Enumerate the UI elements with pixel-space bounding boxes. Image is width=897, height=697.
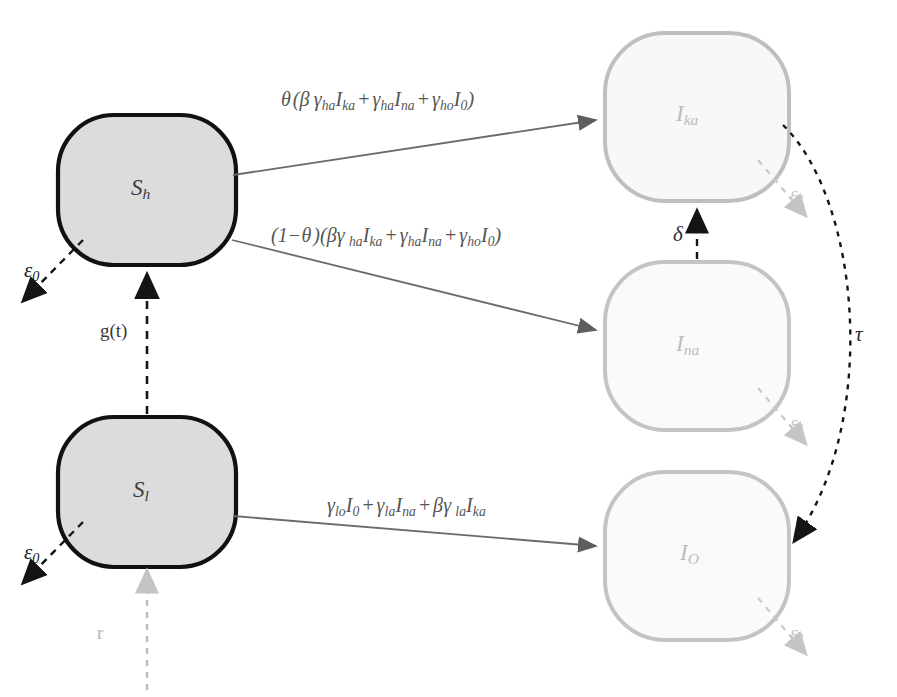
edge-label-delta: δ: [673, 222, 683, 247]
edge-label-tau: τ: [855, 322, 863, 347]
edge-sl-to-io-line: [233, 516, 596, 546]
edge-label-r: r: [97, 622, 103, 644]
edge-label-eps1-ina: ε1: [790, 412, 805, 438]
edge-label-eps0-sh: ε0: [24, 258, 39, 285]
node-label-Sl: Sl: [133, 477, 149, 505]
edge-sh-to-ina-line: [232, 240, 596, 330]
edge-label-eps1-io: ε1: [790, 622, 805, 648]
node-label-Ina: Ina: [676, 331, 699, 359]
edge-sh-to-ika-line: [233, 120, 596, 175]
edge-label-sh-to-ina: (1−θ )(βγ haIka + γhaIna + γhoI0): [271, 224, 501, 250]
edge-label-sh-to-ika: θ (β γhaIka + γhaIna + γhoI0): [281, 88, 474, 114]
node-label-Sh: Sh: [131, 175, 150, 203]
edge-label-sl-to-io: γloI0 + γlaIna + βγ laIka: [327, 494, 486, 520]
diagram-canvas: Sh Sl Ika Ina IO θ (β γhaIka + γhaIna + …: [0, 0, 897, 697]
node-label-Ika: Ika: [676, 101, 698, 129]
edge-label-eps1-ika: ε1: [790, 183, 805, 209]
edge-label-gt: g(t): [100, 320, 127, 342]
node-label-Io: IO: [680, 540, 699, 568]
edge-label-eps0-sl: ε0: [24, 540, 39, 567]
